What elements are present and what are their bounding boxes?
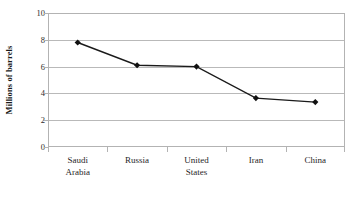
x-tick-mark-2	[167, 147, 168, 152]
gridline-6	[49, 67, 344, 68]
x-label-china: China	[286, 155, 345, 195]
y-axis-tick-labels: 10 8 6 4 2 0	[18, 0, 45, 200]
y-tick-label-8: 8	[21, 36, 45, 45]
x-label-line2: Arabia	[48, 167, 107, 179]
line-chart: Millions of barrels 10 8 6 4 2 0 Saudi A…	[0, 0, 356, 200]
y-tick-label-0: 0	[21, 143, 45, 152]
x-label-russia: Russia	[107, 155, 166, 195]
gridline-8	[49, 40, 344, 41]
x-tick-mark-3	[226, 147, 227, 152]
x-label-line1: United	[167, 155, 226, 167]
y-tick-label-4: 4	[21, 89, 45, 98]
x-label-line1: China	[286, 155, 345, 167]
x-label-line1: Russia	[107, 155, 166, 167]
plot-area	[48, 13, 345, 147]
x-label-line1: Iran	[226, 155, 285, 167]
x-label-iran: Iran	[226, 155, 285, 195]
y-tick-label-6: 6	[21, 63, 45, 72]
gridline-2	[49, 120, 344, 121]
x-axis-category-labels: Saudi Arabia Russia United States Iran C…	[48, 155, 345, 195]
y-tick-label-2: 2	[21, 116, 45, 125]
y-tick-label-10: 10	[21, 9, 45, 18]
x-label-united-states: United States	[167, 155, 226, 195]
x-tick-mark-5	[344, 147, 345, 152]
x-tick-mark-4	[286, 147, 287, 152]
y-axis-title: Millions of barrels	[0, 0, 18, 160]
gridline-4	[49, 93, 344, 94]
x-label-line1: Saudi	[48, 155, 107, 167]
x-tick-mark-1	[107, 147, 108, 152]
x-label-line2: States	[167, 167, 226, 179]
x-label-saudi-arabia: Saudi Arabia	[48, 155, 107, 195]
y-axis-title-label: Millions of barrels	[4, 46, 14, 115]
x-tick-mark-0	[48, 147, 49, 152]
